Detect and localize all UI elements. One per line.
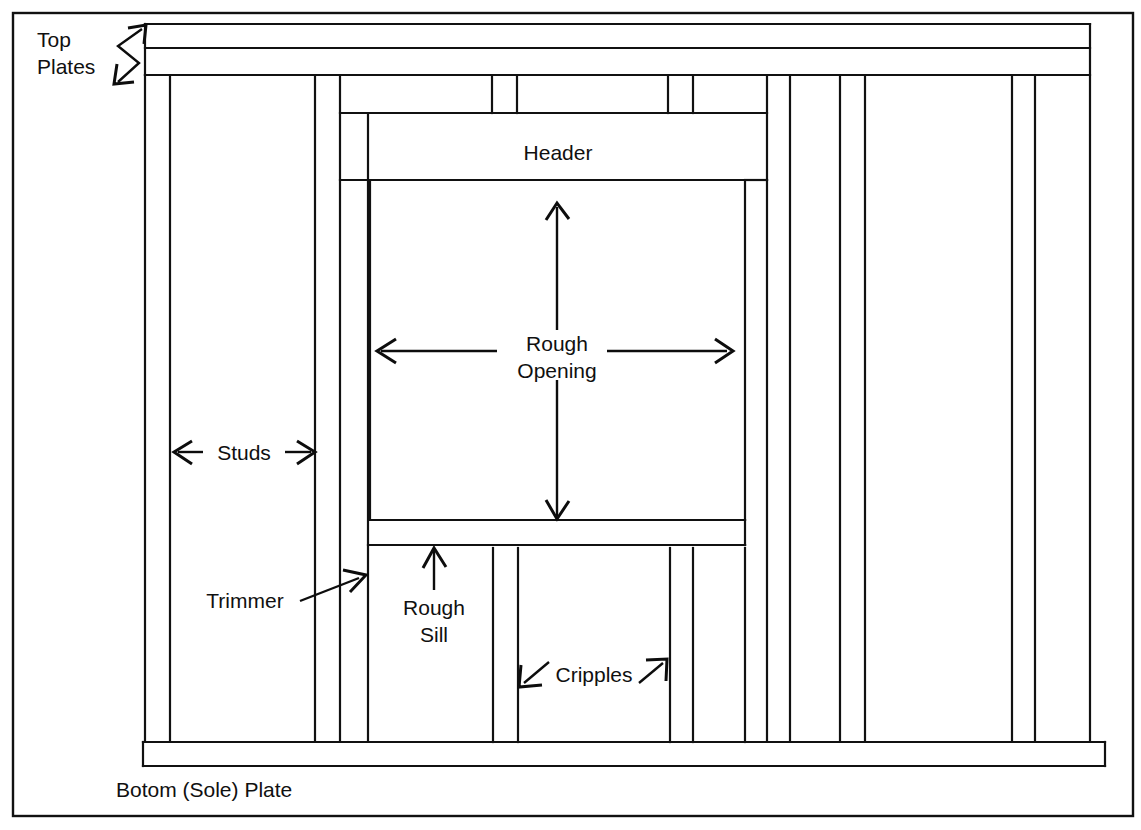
rough-sill-label-line1: Rough <box>403 596 465 619</box>
rough-sill-label-line2: Sill <box>420 623 448 646</box>
rough-opening-label-line1: Rough <box>526 332 588 355</box>
diagram-page: Header Rough Opening <box>0 0 1141 830</box>
top-plates-group <box>145 24 1090 75</box>
cripples-arrow-right-shaft <box>639 663 663 683</box>
top-plates-arrow <box>114 25 146 84</box>
top-plates-label-line2: Plates <box>37 55 95 78</box>
cripples-label: Cripples <box>555 663 632 686</box>
cripples-arrow-left-shaft <box>524 662 549 683</box>
top-plates-arrow-up-head <box>128 25 146 44</box>
top-plates-arrow-zigzag <box>118 29 142 82</box>
trimmer-label: Trimmer <box>206 589 283 612</box>
cripples-above-header-group <box>492 77 693 113</box>
rough-opening-label-line2: Opening <box>517 359 596 382</box>
cripples-arrow-right-head <box>646 659 667 681</box>
bottom-sole-plate-group <box>143 742 1105 766</box>
header-label: Header <box>524 141 593 164</box>
diagram-outer-border <box>13 13 1133 816</box>
rough-sill-group <box>368 520 745 545</box>
cripples-below-sill-group <box>493 548 745 742</box>
top-plates-arrow-down-head <box>114 64 134 84</box>
studs-group <box>145 24 1090 742</box>
trimmer-arrow <box>300 570 366 601</box>
wall-framing-diagram: Header Rough Opening <box>0 0 1141 830</box>
studs-label: Studs <box>217 441 271 464</box>
rough-sill-arrow <box>423 548 446 590</box>
top-plates-label-line1: Top <box>37 28 71 51</box>
bottom-plate-label: Botom (Sole) Plate <box>116 778 292 801</box>
trimmer-arrow-shaft <box>300 578 359 601</box>
